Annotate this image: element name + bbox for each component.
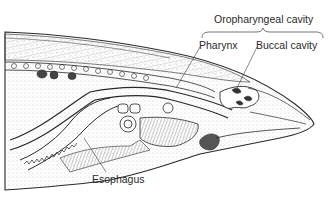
label-buccal-cavity: Buccal cavity (256, 40, 317, 51)
label-esophagus: Esophagus (92, 174, 145, 185)
anatomy-diagram: Oropharyngeal cavity Pharynx Buccal cavi… (0, 0, 328, 200)
label-oropharyngeal-cavity: Oropharyngeal cavity (214, 14, 313, 25)
oropharyngeal-bracket (202, 28, 323, 38)
head-section-illustration (0, 0, 328, 200)
label-pharynx: Pharynx (199, 40, 238, 51)
